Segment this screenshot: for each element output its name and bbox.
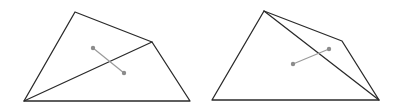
left-segment-endpoint-b (122, 71, 126, 75)
left-diagonal (24, 42, 152, 101)
left-connecting-segment (93, 48, 124, 73)
left-quadrilateral-diagram (24, 12, 190, 101)
right-segment-endpoint-a (291, 62, 295, 66)
right-quadrilateral-diagram (212, 11, 379, 100)
left-quadrilateral-outline (24, 12, 190, 101)
left-segment-endpoint-a (91, 46, 95, 50)
right-segment-endpoint-b (327, 47, 331, 51)
diagram-canvas (0, 0, 401, 112)
right-diagonal (264, 11, 379, 100)
right-quadrilateral-outline (212, 11, 379, 100)
